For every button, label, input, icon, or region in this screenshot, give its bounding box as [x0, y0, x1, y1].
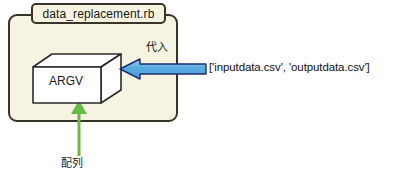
argv-3d-box [31, 52, 123, 106]
array-source-arrow [68, 100, 90, 156]
assignment-arrow-label: 代入 [146, 38, 168, 54]
array-literal-text: ['inputdata.csv', 'outputdata.csv'] [209, 61, 370, 73]
program-filename-tab: data_replacement.rb [31, 3, 166, 24]
diagram-canvas: data_replacement.rb ARGV 配列 [0, 0, 400, 173]
array-arrow-label: 配列 [61, 154, 83, 170]
program-filename-label: data_replacement.rb [43, 7, 155, 21]
assignment-arrow [118, 58, 208, 80]
